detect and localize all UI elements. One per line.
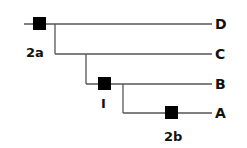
taxon-label-d: D: [215, 16, 227, 32]
event-marker-2a: [33, 17, 46, 30]
taxon-label-a: A: [215, 105, 226, 121]
taxon-label-b: B: [215, 76, 226, 92]
event-label-2b: 2b: [164, 129, 182, 144]
event-label-1: I: [101, 96, 106, 111]
event-marker-2b: [165, 106, 178, 119]
taxon-label-c: C: [215, 46, 225, 62]
event-label-2a: 2a: [26, 45, 44, 60]
cladogram: D C B A 2a I 2b: [0, 0, 247, 148]
event-marker-1: [98, 77, 111, 90]
